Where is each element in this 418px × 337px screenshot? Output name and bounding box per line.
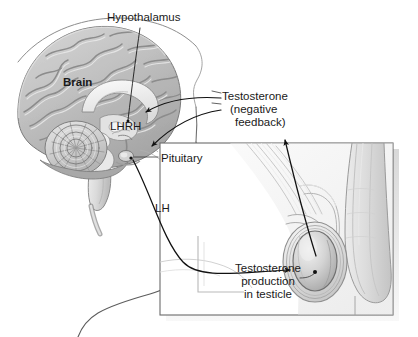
label-testosterone-line3: feedback) (222, 116, 288, 129)
label-production-line2: production (213, 275, 323, 288)
label-production-line1: Testosterone (213, 262, 323, 275)
leader-tick-testosterone-lower (212, 103, 221, 104)
label-testosterone-line2: (negative (222, 103, 288, 116)
label-testosterone-production-in-testicle: Testosterone production in testicle (213, 262, 323, 301)
label-testosterone-line1: Testosterone (222, 90, 288, 103)
label-hypothalamus: Hypothalamus (107, 11, 181, 24)
label-brain: Brain (63, 76, 92, 89)
hpg-axis-diagram (0, 0, 418, 337)
leader-tick-testosterone-upper (212, 91, 221, 93)
penis-shaft (345, 143, 391, 303)
label-pituitary: Pituitary (161, 152, 203, 165)
label-lhrh: LHRH (110, 120, 141, 133)
label-testosterone-negative-feedback: Testosterone (negative feedback) (222, 90, 288, 129)
label-production-line3: in testicle (213, 288, 323, 301)
label-lh: LH (155, 202, 170, 215)
